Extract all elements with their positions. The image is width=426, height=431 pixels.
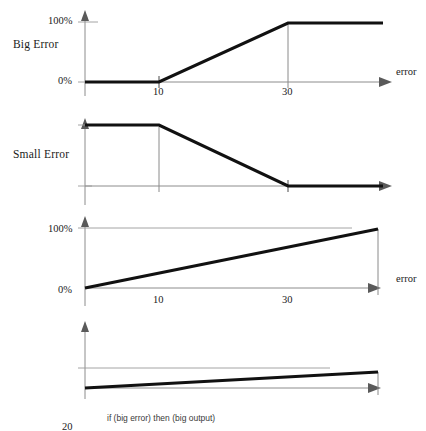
output-curve-small-output: [85, 372, 378, 388]
output-curve-big-output: [85, 229, 378, 288]
panel-label-small-error: Small Error: [13, 148, 69, 160]
membership-curve-big-error: [85, 23, 383, 82]
x-tick-label-10-big-error: 10: [153, 86, 164, 97]
x-axis-name-big-error: error: [396, 66, 416, 77]
panel-label-big-error: Big Error: [13, 38, 59, 50]
panel-big-output: Big Output 20 50 error: [0, 210, 426, 315]
panel-small-error: Small Error 100% 0% 10 30 error: [0, 105, 426, 210]
y-axis-arrow-icon: [81, 321, 89, 332]
x-tick-label-30-big-error: 30: [282, 86, 293, 97]
y-axis-arrow-icon: [81, 216, 89, 227]
x-axis-arrow-icon: [368, 383, 381, 393]
panel-big-error: Big Error 100% 0% 10 30 error: [0, 0, 426, 105]
figure-caption: if (big error) then (big output): [107, 413, 215, 423]
plot-big-output: [0, 210, 426, 315]
x-axis-arrow-icon: [368, 283, 381, 293]
fuzzy-membership-figure: Big Error 100% 0% 10 30 error Small Erro…: [0, 0, 426, 431]
y-label-top-big-error: 100%: [48, 15, 73, 26]
y-axis-arrow-icon: [81, 10, 89, 21]
y-label-bottom-big-error: 0%: [58, 75, 72, 86]
membership-curve-small-error: [85, 125, 383, 186]
x-axis-arrow-icon: [379, 77, 392, 87]
